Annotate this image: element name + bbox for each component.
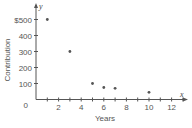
x-tick-label: 12 bbox=[167, 103, 176, 112]
data-point bbox=[102, 86, 105, 89]
x-tick-label: 10 bbox=[145, 103, 154, 112]
data-point bbox=[91, 82, 94, 85]
data-point bbox=[148, 91, 151, 94]
y-tick-label: $500 bbox=[14, 16, 32, 25]
x-axis-arrow-icon bbox=[183, 98, 188, 102]
y-axis-arrow-icon bbox=[34, 3, 38, 8]
x-axis-variable: x bbox=[179, 90, 184, 99]
y-axis-variable: y bbox=[38, 2, 43, 11]
data-point bbox=[46, 18, 49, 21]
data-point bbox=[114, 87, 117, 90]
scatter-chart: 100200300400$50024681012 Contribution Ye… bbox=[0, 0, 192, 128]
y-tick-label: 300 bbox=[19, 48, 33, 57]
x-tick-label: 8 bbox=[124, 103, 129, 112]
plot-area: 100200300400$50024681012 Contribution Ye… bbox=[0, 0, 192, 128]
data-point bbox=[69, 50, 72, 53]
x-axis-title: Years bbox=[95, 114, 115, 123]
y-tick-label: 200 bbox=[19, 64, 33, 73]
origin-label: 0 bbox=[24, 101, 29, 110]
axes: 100200300400$50024681012 bbox=[14, 3, 188, 112]
y-axis-title: Contribution bbox=[3, 38, 12, 81]
x-tick-label: 2 bbox=[56, 103, 61, 112]
x-tick-label: 4 bbox=[79, 103, 84, 112]
y-tick-label: 400 bbox=[19, 32, 33, 41]
data-points bbox=[46, 18, 151, 94]
x-tick-label: 6 bbox=[102, 103, 107, 112]
y-tick-label: 100 bbox=[19, 80, 33, 89]
